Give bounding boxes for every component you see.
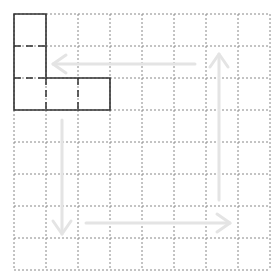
- dotted-grid: [14, 14, 270, 270]
- l-shape-outline: [14, 14, 110, 110]
- arrow-right-icon: [86, 214, 230, 232]
- arrow-up-icon: [210, 54, 228, 200]
- l-shape-figure: [14, 14, 110, 110]
- arrow-down-icon: [53, 120, 71, 234]
- grid-diagram: [0, 0, 273, 280]
- diagram-canvas: [0, 0, 273, 280]
